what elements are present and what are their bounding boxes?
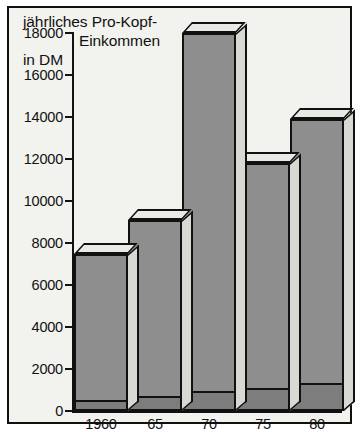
y-tick-0 — [65, 410, 74, 412]
x-axis-line — [72, 411, 342, 413]
bar-side-face-1960 — [128, 244, 139, 411]
bar-side-face-70 — [236, 23, 247, 411]
y-tick-label-0: 0 — [55, 403, 63, 419]
bar-side-face-80 — [344, 109, 355, 411]
y-tick-10000 — [65, 200, 74, 202]
y-tick-label-6000: 6000 — [32, 277, 63, 293]
y-tick-4000 — [65, 326, 74, 328]
bar-front-face-1960 — [74, 254, 128, 411]
y-tick-label-16000: 16000 — [24, 67, 63, 83]
plot-area: 0 2000 4000 6000 8000 10000 12000 14000 … — [72, 32, 342, 413]
y-tick-label-8000: 8000 — [32, 235, 63, 251]
x-tick-label-75: 75 — [255, 416, 271, 432]
y-tick-label-2000: 2000 — [32, 361, 63, 377]
y-tick-label-12000: 12000 — [24, 151, 63, 167]
x-tick-label-80: 80 — [309, 416, 325, 432]
chart-panel: jährliches Pro-Kopf- Einkommen in DM 0 2… — [7, 6, 352, 424]
y-tick-16000 — [65, 74, 74, 76]
y-tick-18000 — [65, 32, 74, 34]
x-tick-label-70: 70 — [201, 416, 217, 432]
bar-side-face-65 — [182, 210, 193, 411]
y-tick-6000 — [65, 284, 74, 286]
bar-side-face-75 — [290, 153, 301, 411]
chart-screenshot: jährliches Pro-Kopf- Einkommen in DM 0 2… — [0, 0, 363, 432]
y-tick-14000 — [65, 116, 74, 118]
y-tick-2000 — [65, 368, 74, 370]
y-tick-label-18000: 18000 — [24, 25, 63, 41]
y-tick-12000 — [65, 158, 74, 160]
x-tick-label-1960: 1960 — [85, 416, 116, 432]
y-tick-label-10000: 10000 — [24, 193, 63, 209]
y-tick-8000 — [65, 242, 74, 244]
x-tick-label-65: 65 — [147, 416, 163, 432]
bar-floor-1960 — [76, 400, 126, 409]
y-tick-label-4000: 4000 — [32, 319, 63, 335]
bar-1960 — [74, 254, 128, 411]
y-tick-label-14000: 14000 — [24, 109, 63, 125]
